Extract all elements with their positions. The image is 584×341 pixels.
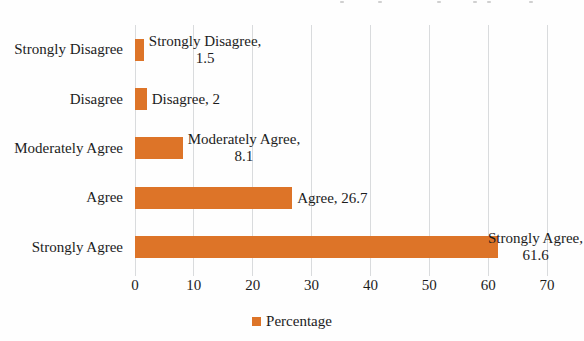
scan-artifact — [487, 1, 491, 3]
bar-moderately-agree — [135, 137, 183, 159]
scan-artifact — [378, 1, 382, 3]
category-label-disagree: Disagree — [0, 74, 123, 123]
data-label-moderately-agree: Moderately Agree,8.1 — [188, 131, 300, 165]
data-label-strongly-agree: Strongly Agree,61.6 — [488, 230, 583, 264]
data-label-agree: Agree, 26.7 — [297, 189, 367, 206]
x-tick-label-0: 0 — [131, 277, 139, 293]
data-label-disagree: Disagree, 2 — [152, 91, 220, 108]
x-tick-label-20: 20 — [245, 277, 260, 293]
category-label-strongly-agree: Strongly Agree — [0, 223, 123, 272]
scan-artifact — [340, 1, 344, 3]
data-label-strongly-disagree: Strongly Disagree,1.5 — [149, 33, 261, 67]
bar-row-strongly-agree: Strongly Agree,61.6 — [135, 223, 547, 272]
survey-bar-chart: Strongly DisagreeDisagreeModerately Agre… — [0, 0, 584, 341]
x-tick-label-10: 10 — [186, 277, 201, 293]
x-tick-label-30: 30 — [304, 277, 319, 293]
category-label-agree: Agree — [0, 173, 123, 222]
x-tick-label-40: 40 — [363, 277, 378, 293]
scan-artifact — [473, 1, 477, 3]
bar-row-agree: Agree, 26.7 — [135, 173, 547, 222]
bar-agree — [135, 187, 292, 209]
bar-row-strongly-disagree: Strongly Disagree,1.5 — [135, 25, 547, 74]
legend: Percentage — [0, 313, 584, 330]
x-tick-label-50: 50 — [422, 277, 437, 293]
category-label-strongly-disagree: Strongly Disagree — [0, 25, 123, 74]
legend-swatch — [252, 317, 261, 326]
bar-strongly-agree — [135, 236, 498, 258]
plot-area: Strongly Disagree,1.5Disagree, 2Moderate… — [135, 25, 547, 272]
x-tick-label-70: 70 — [540, 277, 555, 293]
x-axis: 010203040506070 — [135, 277, 547, 295]
bar-strongly-disagree — [135, 39, 144, 61]
bar-row-disagree: Disagree, 2 — [135, 74, 547, 123]
bar-disagree — [135, 88, 147, 110]
bar-row-moderately-agree: Moderately Agree,8.1 — [135, 124, 547, 173]
scan-artifact — [529, 1, 533, 3]
category-axis: Strongly DisagreeDisagreeModerately Agre… — [0, 25, 135, 272]
scan-artifact — [437, 1, 441, 3]
category-label-moderately-agree: Moderately Agree — [0, 124, 123, 173]
x-tick-label-60: 60 — [481, 277, 496, 293]
legend-label: Percentage — [266, 313, 332, 330]
